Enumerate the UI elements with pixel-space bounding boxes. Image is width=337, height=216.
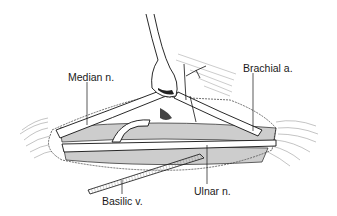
anatomical-illustration	[0, 0, 337, 216]
label-brachial-artery: Brachial a.	[243, 63, 293, 74]
label-median-nerve: Median n.	[68, 72, 114, 83]
vessel-loop	[146, 14, 177, 97]
label-ulnar-nerve: Ulnar n.	[194, 186, 231, 197]
label-basilic-vein: Basilic v.	[102, 196, 143, 207]
